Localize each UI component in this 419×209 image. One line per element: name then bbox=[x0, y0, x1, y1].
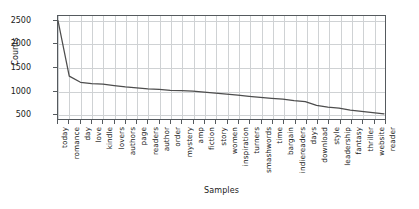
x-tick-mark bbox=[295, 120, 296, 124]
x-tick-label: author bbox=[162, 127, 171, 151]
x-tick-label: amp bbox=[196, 127, 205, 143]
x-tick-label: order bbox=[173, 127, 182, 147]
x-tick-label: leadership bbox=[343, 127, 352, 166]
x-tick-mark bbox=[114, 120, 115, 124]
x-tick-label: days bbox=[309, 127, 318, 144]
x-tick-label: fantasy bbox=[354, 127, 363, 154]
x-tick-mark bbox=[159, 120, 160, 124]
x-tick-label: authors bbox=[128, 127, 137, 155]
x-axis-label: Samples bbox=[57, 186, 386, 195]
x-tick-mark bbox=[283, 120, 284, 124]
x-tick-label: page bbox=[139, 127, 148, 145]
x-tick-mark bbox=[102, 120, 103, 124]
y-tick-label: 2500 bbox=[0, 15, 31, 24]
x-tick-label: thriller bbox=[366, 127, 375, 151]
x-tick-label: indiereaders bbox=[298, 127, 307, 173]
x-tick-label: story bbox=[219, 127, 228, 146]
x-tick-mark bbox=[374, 120, 375, 124]
y-axis-label: Counts bbox=[11, 22, 20, 82]
x-tick-mark bbox=[91, 120, 92, 124]
x-tick-label: romance bbox=[72, 127, 81, 159]
x-tick-mark bbox=[306, 120, 307, 124]
x-tick-mark bbox=[340, 120, 341, 124]
x-tick-label: love bbox=[94, 127, 103, 143]
x-tick-mark bbox=[204, 120, 205, 124]
data-series-line bbox=[58, 16, 385, 120]
x-tick-label: day bbox=[83, 127, 92, 141]
x-tick-mark bbox=[80, 120, 81, 124]
x-tick-label: bargain bbox=[286, 127, 295, 155]
y-tick-label: 1000 bbox=[0, 86, 31, 95]
x-tick-mark bbox=[57, 120, 58, 124]
x-tick-label: turners bbox=[252, 127, 261, 154]
x-tick-mark bbox=[328, 120, 329, 124]
x-tick-mark bbox=[125, 120, 126, 124]
x-tick-mark bbox=[170, 120, 171, 124]
y-tick-label: 1500 bbox=[0, 63, 31, 72]
x-tick-label: lovers bbox=[117, 127, 126, 149]
x-tick-label: download bbox=[320, 127, 329, 163]
x-tick-label: women bbox=[230, 127, 239, 154]
x-tick-mark bbox=[362, 120, 363, 124]
x-tick-label: smashwords bbox=[264, 127, 273, 173]
y-tick-label: 500 bbox=[0, 110, 31, 119]
x-tick-mark bbox=[351, 120, 352, 124]
x-tick-mark bbox=[261, 120, 262, 124]
x-tick-mark bbox=[215, 120, 216, 124]
x-tick-mark bbox=[193, 120, 194, 124]
x-tick-label: today bbox=[60, 127, 69, 148]
x-tick-mark bbox=[136, 120, 137, 124]
x-tick-mark bbox=[181, 120, 182, 124]
line-chart-figure: Counts Samples 5001000150020002500 today… bbox=[0, 0, 419, 209]
x-tick-label: style bbox=[332, 127, 341, 145]
x-tick-label: mystery bbox=[185, 127, 194, 157]
x-tick-label: website bbox=[377, 127, 386, 156]
x-tick-label: reader bbox=[388, 127, 397, 151]
x-tick-mark bbox=[249, 120, 250, 124]
x-tick-label: fiction bbox=[207, 127, 216, 150]
x-tick-label: kindle bbox=[105, 127, 114, 149]
x-tick-mark bbox=[147, 120, 148, 124]
x-tick-mark bbox=[238, 120, 239, 124]
x-tick-label: inspiration bbox=[241, 127, 250, 166]
x-tick-mark bbox=[227, 120, 228, 124]
x-tick-mark bbox=[385, 120, 386, 124]
x-tick-mark bbox=[68, 120, 69, 124]
x-tick-label: time bbox=[275, 127, 284, 144]
y-tick-label: 2000 bbox=[0, 39, 31, 48]
x-tick-mark bbox=[272, 120, 273, 124]
x-tick-mark bbox=[317, 120, 318, 124]
plot-area bbox=[57, 15, 386, 120]
x-tick-label: readers bbox=[151, 127, 160, 155]
